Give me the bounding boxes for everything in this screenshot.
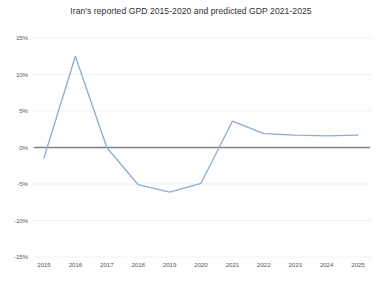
x-tick-label: 2020	[188, 261, 214, 268]
x-tick-label: 2022	[251, 261, 277, 268]
x-tick-label: 2018	[125, 261, 151, 268]
y-tick-label: -15%	[2, 253, 28, 260]
chart-plot-area	[0, 0, 382, 285]
x-tick-label: 2016	[62, 261, 88, 268]
chart-container: Iran's reported GPD 2015-2020 and predic…	[0, 0, 382, 285]
x-tick-label: 2019	[157, 261, 183, 268]
series-polyline	[44, 56, 358, 192]
y-tick-label: -5%	[2, 180, 28, 187]
x-tick-label: 2015	[31, 261, 57, 268]
y-tick-label: -10%	[2, 217, 28, 224]
y-tick-label: 0%	[2, 144, 28, 151]
x-tick-label: 2024	[314, 261, 340, 268]
x-tick-label: 2021	[219, 261, 245, 268]
y-tick-label: 10%	[2, 71, 28, 78]
x-tick-label: 2017	[94, 261, 120, 268]
y-tick-label: 5%	[2, 107, 28, 114]
data-series-line	[44, 56, 358, 192]
x-tick-label: 2023	[282, 261, 308, 268]
y-tick-label: 15%	[2, 34, 28, 41]
x-tick-label: 2025	[345, 261, 371, 268]
